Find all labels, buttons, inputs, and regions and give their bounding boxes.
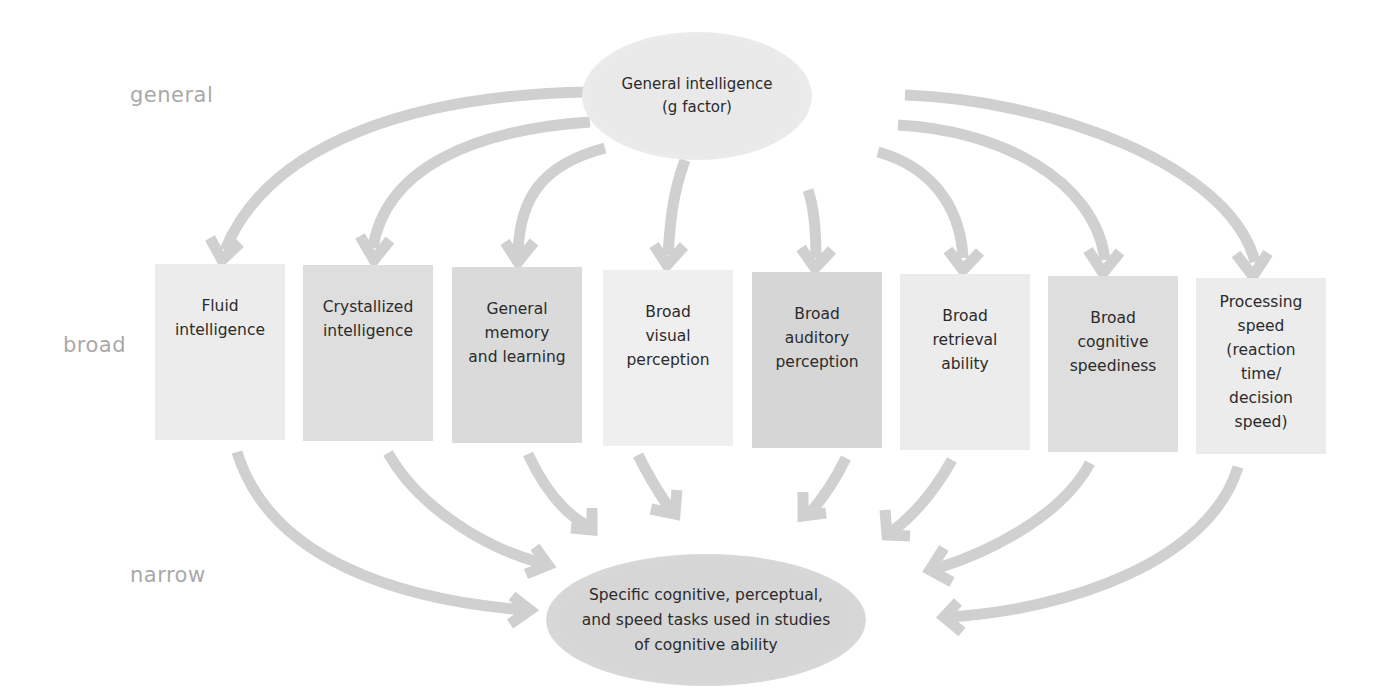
- node-general-intelligence-label: General intelligence (g factor): [622, 73, 773, 119]
- arrow-g-to-auditory: [808, 190, 816, 258]
- arrow-g-to-visual: [668, 160, 685, 255]
- arrow-g-to-retrieval: [878, 152, 963, 258]
- level-label-narrow: narrow: [130, 563, 206, 587]
- arrow-g-to-memory: [518, 148, 605, 252]
- box-label: Broad auditory perception: [776, 302, 859, 448]
- arrow-visual-to-tasks: [638, 455, 672, 512]
- box-label: Broad retrieval ability: [933, 304, 998, 450]
- box-label: Fluid intelligence: [175, 294, 265, 440]
- box-general-memory-learning: General memory and learning: [452, 267, 582, 443]
- arrow-auditory-to-tasks: [808, 458, 846, 515]
- box-crystallized-intelligence: Crystallized intelligence: [303, 265, 433, 441]
- box-label: Broad visual perception: [627, 300, 710, 446]
- node-general-intelligence: General intelligence (g factor): [582, 32, 812, 160]
- node-specific-tasks: Specific cognitive, perceptual, and spee…: [546, 554, 866, 686]
- node-specific-tasks-label: Specific cognitive, perceptual, and spee…: [582, 583, 830, 658]
- box-processing-speed: Processing speed (reaction time/ decisio…: [1196, 278, 1326, 454]
- box-label: Crystallized intelligence: [323, 295, 413, 441]
- box-label: Broad cognitive speediness: [1070, 306, 1157, 452]
- box-label: General memory and learning: [468, 297, 565, 443]
- box-fluid-intelligence: Fluid intelligence: [155, 264, 285, 440]
- arrow-g-to-fluid: [225, 92, 588, 250]
- box-broad-retrieval-ability: Broad retrieval ability: [900, 274, 1030, 450]
- arrow-fluid-to-tasks: [237, 452, 525, 610]
- box-broad-auditory-perception: Broad auditory perception: [752, 272, 882, 448]
- level-label-general: general: [130, 83, 213, 107]
- box-label: Processing speed (reaction time/ decisio…: [1220, 290, 1303, 454]
- arrow-g-to-cognitive: [898, 125, 1105, 260]
- arrow-memory-to-tasks: [528, 454, 590, 527]
- arrow-g-to-crystallized: [373, 122, 590, 248]
- arrow-crystallized-to-tasks: [388, 453, 542, 563]
- level-label-broad: broad: [63, 333, 126, 357]
- box-broad-visual-perception: Broad visual perception: [603, 270, 733, 446]
- arrow-retrieval-to-tasks: [890, 460, 952, 533]
- box-broad-cognitive-speediness: Broad cognitive speediness: [1048, 276, 1178, 452]
- arrow-cognitive-to-tasks: [938, 463, 1090, 568]
